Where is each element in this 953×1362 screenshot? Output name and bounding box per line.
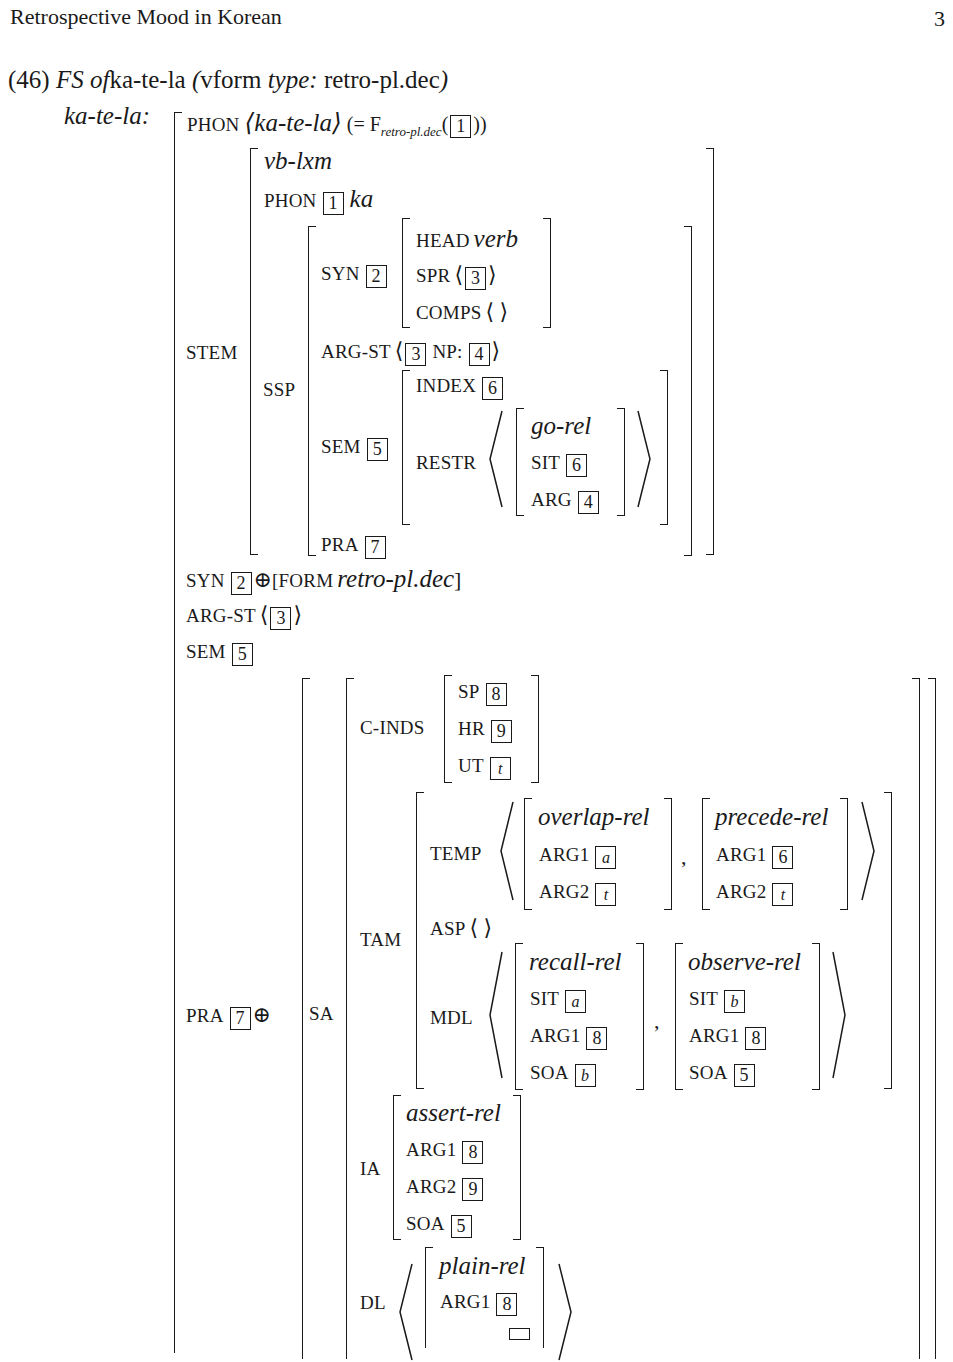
stem-phon-row: PHON 1 ka bbox=[264, 186, 373, 215]
phon-value: ⟨ka-te-la⟩ bbox=[245, 109, 342, 136]
tag-box: 8 bbox=[745, 1027, 766, 1050]
tag-box: 3 bbox=[465, 267, 486, 290]
precede-arg2-row: ARG2 t bbox=[716, 882, 795, 906]
tag-box: a bbox=[565, 990, 586, 1013]
gorel-right-bracket bbox=[617, 408, 625, 516]
recall-sit-row: SIT a bbox=[530, 989, 588, 1013]
stem-label: STEM bbox=[186, 343, 237, 362]
plain-type: plain-rel bbox=[439, 1253, 526, 1278]
cinds-label: C-INDS bbox=[360, 718, 425, 737]
tag-box: 3 bbox=[405, 343, 426, 366]
left-angle-icon bbox=[499, 800, 515, 902]
running-title: Retrospective Mood in Korean bbox=[10, 6, 282, 28]
sem-right-bracket bbox=[660, 370, 668, 525]
caption-type-value: retro-pl.dec bbox=[324, 66, 440, 93]
precede-arg1-row: ARG1 6 bbox=[716, 845, 795, 869]
tag-box: t bbox=[772, 883, 793, 906]
tag-box: 5 bbox=[734, 1064, 755, 1087]
sp-row: SP 8 bbox=[458, 682, 509, 706]
ssp-label: SSP bbox=[263, 380, 295, 399]
ia-arg1-row: ARG1 8 bbox=[406, 1140, 485, 1164]
ssp-right-bracket bbox=[684, 226, 692, 556]
sem-row: SEM 5 bbox=[186, 642, 255, 666]
sa-left-bracket bbox=[346, 678, 354, 1359]
overlap-arg2-row: ARG2 t bbox=[539, 882, 618, 906]
sa-right-bracket bbox=[912, 678, 920, 1359]
precede-left-bracket bbox=[702, 798, 710, 910]
phon-label: PHON bbox=[187, 114, 240, 135]
pra-row: PRA 7⊕ bbox=[186, 1004, 271, 1030]
phon-row: PHON ⟨ka-te-la⟩ (= Fretro-pl.dec(1)) bbox=[187, 110, 487, 138]
tag-box: 4 bbox=[469, 343, 490, 366]
observe-type: observe-rel bbox=[688, 949, 801, 974]
tag-box: 9 bbox=[462, 1178, 483, 1201]
oplus-icon: ⊕ bbox=[253, 1002, 271, 1027]
tag-box: t bbox=[595, 883, 616, 906]
ia-label: IA bbox=[360, 1159, 380, 1178]
mdl-label: MDL bbox=[430, 1008, 473, 1027]
right-angle-icon bbox=[860, 800, 876, 902]
right-angle-icon bbox=[557, 1262, 573, 1362]
cinds-left-bracket bbox=[444, 675, 452, 783]
ia-soa-row: SOA 5 bbox=[406, 1214, 474, 1238]
overlap-arg1-row: ARG1 a bbox=[539, 845, 618, 869]
ssp-syn-row: SYN 2 bbox=[321, 264, 389, 288]
tag-box: 1 bbox=[323, 192, 344, 215]
example-caption: (46) FS ofka-te-la (vform type: retro-pl… bbox=[8, 67, 448, 92]
tag-box-cut-off bbox=[509, 1328, 530, 1340]
overlap-left-bracket bbox=[524, 798, 532, 910]
phon-func-subscript: retro-pl.dec bbox=[381, 124, 442, 139]
temp-label: TEMP bbox=[430, 844, 481, 863]
caption-word: ka-te-la bbox=[109, 66, 185, 93]
tag-box: b bbox=[724, 990, 745, 1013]
plain-left-bracket bbox=[425, 1247, 433, 1348]
overlap-right-bracket bbox=[664, 798, 672, 910]
observe-right-bracket bbox=[812, 943, 820, 1090]
tam-left-bracket bbox=[416, 792, 424, 1089]
stem-left-bracket bbox=[250, 148, 258, 555]
left-angle-icon bbox=[398, 1262, 414, 1362]
arg-row: ARG 4 bbox=[531, 490, 601, 514]
left-angle-icon bbox=[488, 950, 504, 1080]
asp-row: ASP ⟨ ⟩ bbox=[430, 917, 492, 939]
ia-left-bracket bbox=[393, 1095, 401, 1240]
index-row: INDEX 6 bbox=[416, 376, 505, 400]
syn-right-bracket bbox=[543, 218, 551, 328]
outer-left-bracket bbox=[174, 112, 182, 1353]
tam-right-bracket bbox=[884, 792, 892, 1089]
tag-box: 6 bbox=[566, 454, 587, 477]
tag-box: 2 bbox=[366, 265, 387, 288]
ssp-sem-row: SEM 5 bbox=[321, 437, 390, 461]
tag-box: 5 bbox=[232, 643, 253, 666]
tag-box: a bbox=[595, 846, 616, 869]
restr-label: RESTR bbox=[416, 453, 476, 472]
ssp-argst-row: ARG-ST ⟨3 NP: 4⟩ bbox=[321, 340, 500, 366]
observe-arg1-row: ARG1 8 bbox=[689, 1026, 768, 1050]
tag-box: 2 bbox=[231, 572, 252, 595]
caption-vform: vform bbox=[200, 66, 261, 93]
head-row: HEAD verb bbox=[416, 226, 518, 251]
assert-type: assert-rel bbox=[406, 1100, 501, 1125]
observe-left-bracket bbox=[675, 943, 683, 1090]
ssp-pra-row: PRA 7 bbox=[321, 535, 388, 559]
left-angle-icon bbox=[488, 409, 504, 509]
word-label: ka-te-la: bbox=[64, 103, 150, 128]
precede-right-bracket bbox=[840, 798, 848, 910]
stem-type: vb-lxm bbox=[264, 148, 332, 173]
right-angle-icon bbox=[831, 950, 847, 1080]
tag-box: 5 bbox=[451, 1215, 472, 1238]
tag-box: 7 bbox=[230, 1007, 251, 1030]
syn-row: SYN 2⊕[FORM retro-pl.dec] bbox=[186, 566, 461, 595]
gorel-left-bracket bbox=[516, 408, 524, 516]
tag-box: 8 bbox=[586, 1027, 607, 1050]
caption-type: type: bbox=[268, 66, 318, 93]
recall-right-bracket bbox=[636, 943, 644, 1090]
cinds-right-bracket bbox=[531, 675, 539, 783]
overlap-type: overlap-rel bbox=[538, 804, 650, 829]
page-number: 3 bbox=[934, 8, 945, 30]
tag-box: 6 bbox=[772, 846, 793, 869]
stem-right-bracket bbox=[706, 148, 714, 555]
pra-right-bracket bbox=[928, 678, 936, 1359]
tag-box: 7 bbox=[365, 536, 386, 559]
recall-type: recall-rel bbox=[529, 949, 622, 974]
